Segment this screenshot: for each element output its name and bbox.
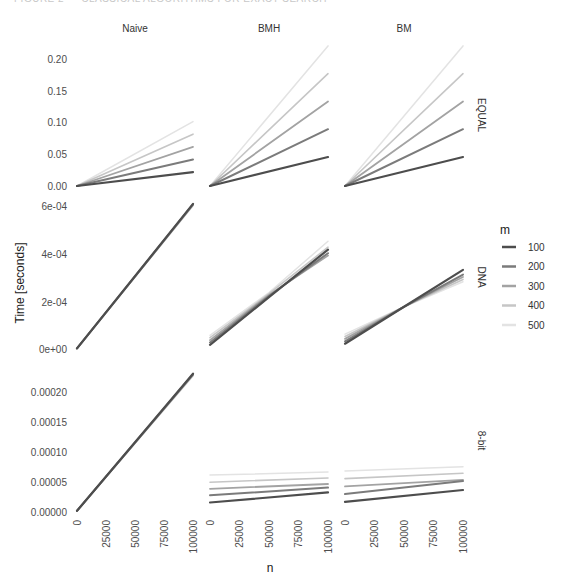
legend-label: 300 bbox=[528, 281, 545, 292]
panel-dna-bmh bbox=[210, 241, 328, 345]
legend-items: 100200300400500 bbox=[502, 242, 545, 331]
y-tick-label: 0.05 bbox=[48, 149, 68, 160]
series-line-m500 bbox=[345, 46, 463, 186]
panel-dna-bm bbox=[345, 270, 463, 344]
x-tick-label: 25000 bbox=[234, 520, 245, 548]
series-line-m500 bbox=[77, 122, 193, 186]
x-tick-label: 0 bbox=[72, 520, 83, 526]
x-tick-label: 25000 bbox=[369, 520, 380, 548]
series-line-m300 bbox=[345, 101, 463, 186]
column-strip-labels: NaiveBMHBM bbox=[122, 23, 411, 34]
series-line-m500 bbox=[345, 467, 463, 471]
row-strip-8-bit: 8-bit bbox=[476, 431, 487, 451]
series-line-m200 bbox=[210, 129, 328, 186]
legend-item-100: 100 bbox=[502, 242, 545, 253]
legend-label: 500 bbox=[528, 320, 545, 331]
panel-8-bit-bmh bbox=[210, 472, 328, 502]
column-strip-naive: Naive bbox=[122, 23, 148, 34]
x-tick-label: 75000 bbox=[293, 520, 304, 548]
legend-item-500: 500 bbox=[502, 320, 545, 331]
y-tick-label: 0.20 bbox=[48, 54, 68, 65]
y-tick-label: 6e-04 bbox=[41, 201, 67, 212]
series-line-m500 bbox=[210, 241, 328, 335]
x-tick-label: 75000 bbox=[428, 520, 439, 548]
legend-item-400: 400 bbox=[502, 300, 545, 311]
x-tick-label: 100000 bbox=[458, 520, 469, 554]
series-line-m300 bbox=[210, 101, 328, 186]
y-axis-label: Time [seconds] bbox=[13, 243, 27, 324]
legend-item-200: 200 bbox=[502, 261, 545, 272]
row-strip-dna: DNA bbox=[476, 266, 487, 287]
faceted-line-chart: NaiveBMHBM EQUALDNA8-bit 0.000.050.100.1… bbox=[0, 0, 564, 580]
series-line-m200 bbox=[345, 129, 463, 186]
series-line-m500 bbox=[210, 46, 328, 186]
panel-8-bit-naive bbox=[77, 374, 193, 511]
x-tick-label: 50000 bbox=[399, 520, 410, 548]
series-line-m200 bbox=[77, 160, 193, 187]
x-tick-label: 0 bbox=[340, 520, 351, 526]
series-line-m100 bbox=[210, 157, 328, 186]
y-axis-ticks: 0.000.050.100.150.200e+002e-044e-046e-04… bbox=[31, 54, 68, 517]
x-tick-label: 0 bbox=[205, 520, 216, 526]
x-tick-label: 100000 bbox=[188, 520, 199, 554]
series-line-m400 bbox=[345, 473, 463, 478]
plot-panels bbox=[77, 46, 463, 511]
y-tick-label: 0.15 bbox=[48, 86, 68, 97]
legend-title: m bbox=[500, 223, 510, 237]
x-tick-label: 50000 bbox=[130, 520, 141, 548]
y-tick-label: 0.00005 bbox=[31, 477, 68, 488]
x-tick-label: 25000 bbox=[101, 520, 112, 548]
series-line-m400 bbox=[345, 74, 463, 186]
panel-equal-bm bbox=[345, 46, 463, 186]
series-line-m500 bbox=[210, 472, 328, 475]
x-tick-label: 50000 bbox=[264, 520, 275, 548]
y-tick-label: 0.00 bbox=[48, 181, 68, 192]
series-line-m100 bbox=[77, 204, 193, 349]
y-tick-label: 0e+00 bbox=[39, 344, 68, 355]
y-tick-label: 2e-04 bbox=[41, 297, 67, 308]
column-strip-bmh: BMH bbox=[258, 23, 280, 34]
column-strip-bm: BM bbox=[397, 23, 412, 34]
panel-8-bit-bm bbox=[345, 467, 463, 502]
row-strip-equal: EQUAL bbox=[476, 98, 487, 132]
series-line-m400 bbox=[210, 478, 328, 482]
y-tick-label: 0.00000 bbox=[31, 507, 68, 518]
panel-equal-bmh bbox=[210, 46, 328, 186]
x-axis-label: n bbox=[267, 561, 274, 575]
legend: m 100200300400500 bbox=[500, 223, 545, 331]
series-line-m100 bbox=[345, 157, 463, 186]
x-tick-label: 75000 bbox=[159, 520, 170, 548]
series-line-m100 bbox=[77, 374, 193, 511]
y-tick-label: 0.00010 bbox=[31, 447, 68, 458]
y-tick-label: 0.10 bbox=[48, 117, 68, 128]
panel-dna-naive bbox=[77, 204, 193, 349]
legend-item-300: 300 bbox=[502, 281, 545, 292]
row-strip-labels: EQUALDNA8-bit bbox=[476, 98, 487, 450]
y-tick-label: 0.00015 bbox=[31, 417, 68, 428]
panel-equal-naive bbox=[77, 122, 193, 186]
series-line-m100 bbox=[345, 270, 463, 344]
x-tick-label: 100000 bbox=[323, 520, 334, 554]
x-axis-ticks: 0250005000075000100000025000500007500010… bbox=[72, 520, 469, 554]
y-tick-label: 4e-04 bbox=[41, 249, 67, 260]
legend-label: 200 bbox=[528, 261, 545, 272]
y-tick-label: 0.00020 bbox=[31, 387, 68, 398]
legend-label: 100 bbox=[528, 242, 545, 253]
series-line-m100 bbox=[210, 250, 328, 345]
legend-label: 400 bbox=[528, 300, 545, 311]
series-line-m400 bbox=[210, 74, 328, 186]
